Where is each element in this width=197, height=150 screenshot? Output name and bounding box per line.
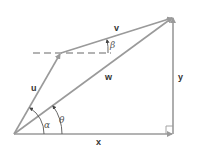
vector-w (14, 18, 172, 134)
label-v: v (114, 23, 119, 33)
label-w: w (104, 72, 113, 82)
vector-diagram: v β u w y x α θ (0, 0, 197, 150)
right-angle-marker (166, 126, 173, 134)
label-u: u (31, 83, 37, 93)
label-theta: θ (59, 115, 65, 125)
vector-u (14, 54, 60, 134)
label-y: y (178, 72, 183, 82)
beta-angle-arc (107, 40, 108, 53)
label-x: x (96, 137, 101, 147)
label-alpha: α (44, 120, 50, 130)
label-beta: β (109, 40, 115, 50)
